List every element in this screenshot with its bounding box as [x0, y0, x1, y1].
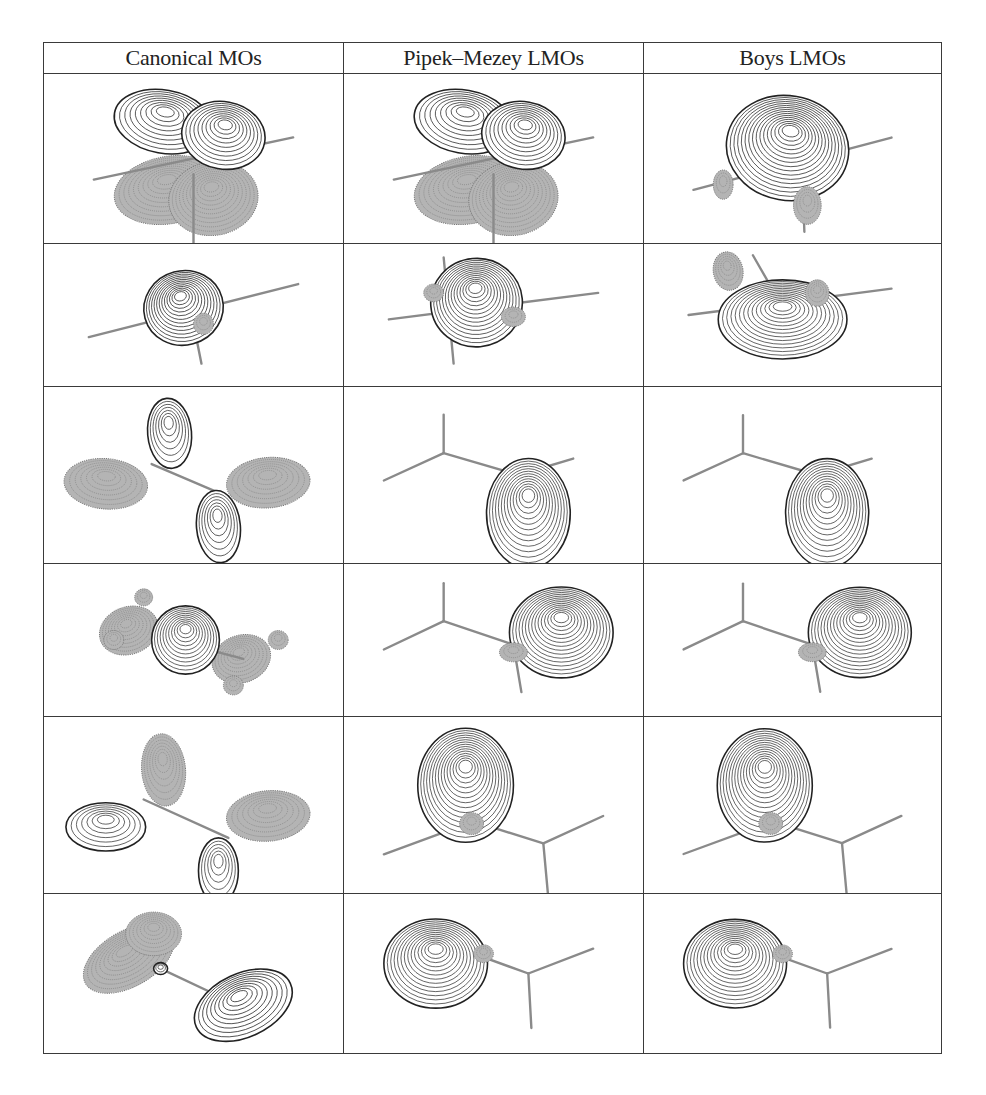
positive-lobe-icon	[154, 963, 168, 975]
orbital-cell: lone-pair-like LMO	[644, 387, 942, 564]
negative-lobe-icon	[710, 249, 746, 292]
boys-lmo-4-isosurface-image: C-H bond LMO	[644, 564, 941, 716]
orbital-row: pi bonding MO, two-center lobes above an…	[44, 74, 942, 244]
positive-lobe-icon	[198, 838, 238, 893]
positive-lobe-icon	[718, 86, 857, 210]
canonical-mo-2-isosurface-image: sigma C-C bonding MO	[44, 244, 343, 386]
orbital-cell: pi LMO identical to canonical	[344, 74, 644, 244]
boys-lmo-6-isosurface-image: C-H bond LMO	[644, 894, 941, 1053]
pipek-mezey-lmo-3-isosurface-image: lone-pair-like LMO	[344, 387, 643, 563]
header-pipek-mezey-lmos: Pipek–Mezey LMOs	[344, 43, 644, 74]
negative-lobe-icon	[62, 455, 150, 513]
negative-lobe-icon	[713, 170, 733, 199]
negative-lobe-icon	[224, 787, 312, 845]
negative-lobe-icon	[499, 643, 527, 662]
negative-lobe-icon	[194, 313, 214, 334]
positive-lobe-icon	[145, 396, 195, 470]
orbital-cell: sigma C-C bonding MO	[44, 244, 344, 387]
orbital-cell: C-H bond LMO	[644, 717, 942, 894]
negative-lobe-icon	[460, 813, 484, 835]
pipek-mezey-lmo-5-isosurface-image: C-H bond LMO	[344, 717, 643, 893]
boys-lmo-2-isosurface-image: banana bond LMO with H lobes	[644, 244, 941, 386]
bond-line	[842, 816, 901, 843]
orbital-cell: four-lobe CH MO, alternate phases	[44, 717, 344, 894]
orbital-cell: C-H bond LMO	[344, 894, 644, 1054]
canonical-mo-4-isosurface-image: delocalized MO with lobes on C-H	[44, 564, 343, 716]
negative-lobe-icon	[474, 945, 494, 963]
negative-lobe-icon	[104, 631, 124, 650]
header-canonical-mos: Canonical MOs	[44, 43, 344, 74]
orbital-cell: pi bonding MO, two-center lobes above an…	[44, 74, 344, 244]
positive-lobe-icon	[509, 587, 613, 678]
canonical-mo-3-isosurface-image: four-lobe CH pi-type MO	[44, 387, 343, 563]
negative-lobe-icon	[798, 643, 826, 662]
negative-lobe-icon	[224, 454, 312, 512]
positive-lobe-icon	[384, 919, 488, 1008]
positive-lobe-icon	[487, 459, 571, 563]
negative-lobe-icon	[773, 945, 793, 963]
bond-line	[543, 816, 603, 843]
bond-line	[743, 621, 812, 645]
pipek-mezey-lmo-6-isosurface-image: C-H bond LMO	[344, 894, 643, 1053]
orbital-cell: lone-pair-like LMO	[344, 387, 644, 564]
negative-lobe-icon	[139, 732, 189, 808]
bond-line	[528, 974, 531, 1028]
bond-line	[842, 843, 847, 893]
orbital-cell: delocalized C-H MO	[44, 894, 344, 1054]
bond-line	[384, 621, 444, 649]
positive-lobe-icon	[183, 955, 304, 1053]
canonical-mo-5-isosurface-image: four-lobe CH MO, alternate phases	[44, 717, 343, 893]
pipek-mezey-lmo-4-isosurface-image: C-H bond LMO	[344, 564, 643, 716]
negative-lobe-icon	[805, 280, 829, 306]
negative-lobe-icon	[135, 589, 153, 606]
bond-line	[543, 843, 548, 893]
orbital-cell: C-H bond LMO	[644, 564, 942, 717]
boys-lmo-5-isosurface-image: C-H bond LMO	[644, 717, 941, 893]
canonical-mo-6-isosurface-image: delocalized C-H MO	[44, 894, 343, 1053]
bond-line	[444, 621, 514, 645]
bond-line	[827, 949, 891, 974]
bond-line	[684, 453, 743, 480]
orbital-cell: banana bond LMO	[644, 74, 942, 244]
orbital-row: delocalized MO with lobes on C-HC-H bond…	[44, 564, 942, 717]
orbital-cell: delocalized MO with lobes on C-H	[44, 564, 344, 717]
boys-lmo-3-isosurface-image: lone-pair-like LMO	[644, 387, 941, 563]
orbital-comparison-table: Canonical MOs Pipek–Mezey LMOs Boys LMOs…	[43, 42, 942, 1054]
positive-lobe-icon	[786, 459, 869, 563]
header-row: Canonical MOs Pipek–Mezey LMOs Boys LMOs	[44, 43, 942, 74]
positive-lobe-icon	[427, 255, 526, 351]
positive-lobe-icon	[152, 606, 220, 674]
pipek-mezey-lmo-1-isosurface-image: pi LMO identical to canonical	[344, 74, 643, 243]
canonical-mo-1-isosurface-image: pi bonding MO, two-center lobes above an…	[44, 74, 343, 243]
bond-line	[827, 974, 830, 1028]
orbital-row: four-lobe CH MO, alternate phasesC-H bon…	[44, 717, 942, 894]
bond-line	[528, 949, 593, 974]
pipek-mezey-lmo-2-isosurface-image: sigma C-C LMO with small H lobes	[344, 244, 643, 386]
orbital-row: four-lobe CH pi-type MOlone-pair-like LM…	[44, 387, 942, 564]
positive-lobe-icon	[66, 803, 146, 851]
negative-lobe-icon	[759, 813, 783, 835]
orbital-row: sigma C-C bonding MOsigma C-C LMO with s…	[44, 244, 942, 387]
bond-line	[684, 621, 743, 649]
negative-lobe-icon	[793, 187, 821, 225]
boys-lmo-1-isosurface-image: banana bond LMO	[644, 74, 941, 243]
negative-lobe-icon	[424, 284, 444, 302]
orbital-cell: banana bond LMO with H lobes	[644, 244, 942, 387]
negative-lobe-icon	[501, 307, 525, 326]
positive-lobe-icon	[135, 262, 231, 354]
negative-lobe-icon	[126, 912, 182, 956]
orbital-cell: sigma C-C LMO with small H lobes	[344, 244, 644, 387]
orbital-cell: C-H bond LMO	[344, 564, 644, 717]
bond-line	[384, 453, 444, 480]
orbital-cell: four-lobe CH pi-type MO	[44, 387, 344, 564]
positive-lobe-icon	[808, 587, 911, 677]
negative-lobe-icon	[223, 676, 243, 695]
orbital-row: delocalized C-H MOC-H bond LMOC-H bond L…	[44, 894, 942, 1054]
header-boys-lmos: Boys LMOs	[644, 43, 942, 74]
orbital-cell: C-H bond LMO	[344, 717, 644, 894]
orbital-cell: C-H bond LMO	[644, 894, 942, 1054]
negative-lobe-icon	[268, 631, 288, 650]
positive-lobe-icon	[684, 919, 787, 1008]
orbital-rows: pi bonding MO, two-center lobes above an…	[44, 74, 942, 1054]
bond-line	[144, 800, 229, 838]
